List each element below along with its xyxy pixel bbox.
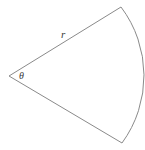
sector-figure: r θ (0, 0, 145, 150)
sector-diagram-canvas: r θ (0, 0, 145, 150)
angle-label: θ (19, 70, 24, 81)
radius-label: r (61, 28, 66, 40)
